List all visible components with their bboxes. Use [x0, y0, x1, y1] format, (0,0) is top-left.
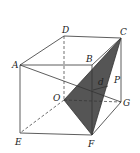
vertex-c-label: C [120, 27, 127, 37]
vertex-g-label: G [123, 98, 130, 108]
vertex-a-label: A [11, 60, 19, 70]
vertex-o-label: O [53, 93, 61, 103]
vertex-b-label: B [85, 54, 93, 64]
vertex-d-label: D [61, 25, 69, 35]
vertex-e-label: E [14, 137, 22, 147]
distance-d-label: d [98, 77, 104, 87]
point-p-label: P [113, 75, 121, 85]
vertex-f-label: F [87, 139, 95, 149]
shaded-triangle-ocf [64, 38, 121, 135]
cube-diagram: A B C D E F G O P d [0, 0, 140, 153]
